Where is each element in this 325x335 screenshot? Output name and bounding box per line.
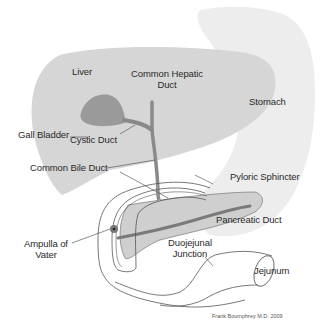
credit-text: Frank Boumphrey M.D. 2009 xyxy=(212,313,283,319)
label-common-bile-duct: Common Bile Duct xyxy=(30,162,108,173)
anatomy-diagram: Liver Gall Bladder Common Hepatic Duct C… xyxy=(0,0,325,335)
label-liver: Liver xyxy=(72,66,92,77)
label-gall-bladder: Gall Bladder xyxy=(18,129,69,140)
label-pancreatic-duct: Pancreatic Duct xyxy=(216,214,282,225)
label-common-hepatic-duct: Common Hepatic Duct xyxy=(131,68,203,90)
label-duodejunal-line1: Duojejunal xyxy=(168,237,212,248)
label-ampulla-line2: Vater xyxy=(24,249,68,260)
label-pyloric-sphincter: Pyloric Sphincter xyxy=(230,171,300,182)
ampulla-center xyxy=(113,228,116,231)
label-common-hepatic-duct-line1: Common Hepatic xyxy=(131,68,203,79)
label-cystic-duct: Cystic Duct xyxy=(70,134,117,145)
label-common-hepatic-duct-line2: Duct xyxy=(131,79,203,90)
label-ampulla-line1: Ampulla of xyxy=(24,238,68,249)
label-ampulla-of-vater: Ampulla of Vater xyxy=(24,238,68,260)
label-stomach: Stomach xyxy=(249,96,286,107)
label-duodejunal-line2: Junction xyxy=(168,248,212,259)
label-jejunum: Jejunum xyxy=(254,265,289,276)
label-duodejunal-junction: Duojejunal Junction xyxy=(168,237,212,259)
